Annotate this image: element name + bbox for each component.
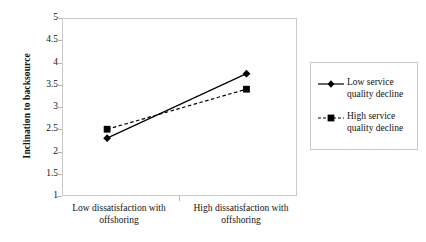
- y-tick-label-2: 2: [16, 147, 58, 157]
- y-tick-label-1: 1: [16, 191, 58, 201]
- x-category-label-low: Low dissatisfaction with offshoring: [60, 203, 178, 227]
- y-tick-label-3.5: 3.5: [16, 80, 58, 90]
- legend-label-low: Low service quality decline: [347, 77, 417, 101]
- y-tick-label-2.5: 2.5: [16, 124, 58, 134]
- legend: Low service quality decline High service…: [310, 62, 418, 150]
- legend-entry-low-service-quality-decline: Low service quality decline: [317, 77, 417, 101]
- y-tick-label-5: 5: [16, 13, 58, 23]
- y-tick-mark: [57, 196, 62, 197]
- x-category-label-high: High dissatisfaction with offshoring: [182, 203, 300, 227]
- interaction-line-chart: Inclination to backsource 5 4.5 4 3.5 3 …: [0, 0, 426, 242]
- y-tick-label-3: 3: [16, 102, 58, 112]
- x-tick-mark-center: [179, 196, 180, 201]
- legend-label-high: High service quality decline: [347, 111, 417, 135]
- legend-marker-diamond-icon: [317, 78, 345, 90]
- y-tick-label-1.5: 1.5: [16, 169, 58, 179]
- plot-area: [62, 18, 297, 196]
- legend-marker-square-icon: [317, 112, 345, 124]
- y-tick-label-4: 4: [16, 58, 58, 68]
- y-tick-label-4.5: 4.5: [16, 35, 58, 45]
- legend-entry-high-service-quality-decline: High service quality decline: [317, 111, 417, 135]
